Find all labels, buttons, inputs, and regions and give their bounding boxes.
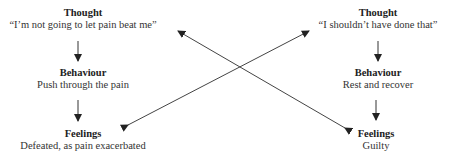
right-feelings-text: Guilty xyxy=(306,140,446,152)
right-thought-heading: Thought xyxy=(308,7,448,19)
left-behaviour-text: Push through the pain xyxy=(8,79,158,91)
right-feelings-node: Feelings Guilty xyxy=(306,128,446,152)
left-thought-heading: Thought xyxy=(8,7,158,19)
right-thought-text: “I shouldn’t have done that” xyxy=(308,19,448,31)
right-behaviour-heading: Behaviour xyxy=(308,67,448,79)
left-behaviour-heading: Behaviour xyxy=(8,67,158,79)
right-thought-node: Thought “I shouldn’t have done that” xyxy=(308,7,448,31)
right-behaviour-text: Rest and recover xyxy=(308,79,448,91)
left-feelings-node: Feelings Defeated, as pain exacerbated xyxy=(8,128,158,152)
left-thought-node: Thought “I’m not going to let pain beat … xyxy=(8,7,158,31)
left-behaviour-node: Behaviour Push through the pain xyxy=(8,67,158,91)
left-thought-text: “I’m not going to let pain beat me” xyxy=(8,19,158,31)
left-feelings-text: Defeated, as pain exacerbated xyxy=(8,140,158,152)
left-feelings-heading: Feelings xyxy=(8,128,158,140)
right-behaviour-node: Behaviour Rest and recover xyxy=(308,67,448,91)
right-feelings-heading: Feelings xyxy=(306,128,446,140)
